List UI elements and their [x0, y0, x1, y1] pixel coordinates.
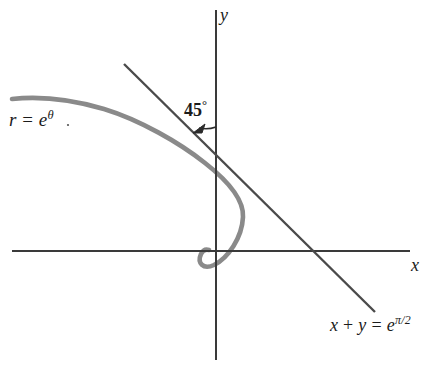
angle-label: 45° [184, 101, 207, 119]
degree-symbol-icon: ° [202, 98, 207, 112]
line-equation-equals: = [367, 315, 387, 335]
line-equation-label: x + y = eπ/2 [330, 316, 411, 334]
curve-equation-label: r = eθ [9, 110, 54, 129]
curve-equation-base: e [39, 109, 48, 130]
curve-equation-exponent: θ [48, 108, 55, 122]
line-equation-plus: + [338, 315, 358, 335]
x-axis-label: x [411, 256, 419, 274]
tangent-line [124, 64, 375, 312]
label-dot-mark [67, 124, 69, 126]
line-equation-base: e [387, 315, 395, 335]
angle-value: 45 [184, 100, 202, 120]
line-equation-exponent: π/2 [395, 313, 411, 327]
angle-arrowhead-icon [193, 124, 205, 133]
curve-equation-equals: = [17, 109, 39, 130]
y-axis-label: y [220, 6, 228, 24]
line-equation-y: y [358, 315, 366, 335]
curve-equation-lhs: r [9, 109, 17, 130]
figure-canvas: r = eθ x + y = eπ/2 y x 45° [0, 0, 438, 371]
